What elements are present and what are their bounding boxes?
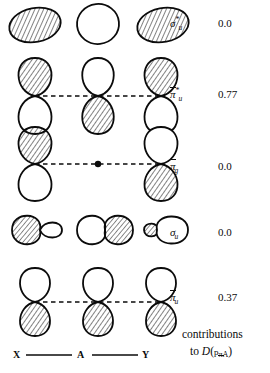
symbol-glyph-5: π [170, 291, 176, 303]
p-orbital-left-top-lobe-row3 [18, 127, 51, 164]
overbar-2 [170, 87, 176, 88]
symbol-base-3: π [170, 160, 176, 172]
overbar-3 [170, 159, 176, 160]
caption-to-word: to [190, 345, 199, 357]
symbol-glyph-3: π [170, 160, 176, 172]
p-orbital-center-bottom-lobe [82, 96, 114, 134]
p-orbital-h-left-open-lobe [40, 223, 62, 238]
symbol-base-1: σ [170, 17, 175, 29]
symbol-glyph-2: π [170, 88, 176, 100]
symbol-base-4: σ [170, 226, 175, 238]
row-5-orbitals [20, 268, 176, 336]
axis-label-x: X [13, 349, 20, 360]
row-value-4: 0.0 [218, 226, 232, 238]
p-orbital-right-bottom-lobe-row5 [146, 302, 176, 336]
p-orbital-center-bottom-lobe-row5 [83, 302, 113, 336]
axis-label-y: Y [142, 349, 149, 360]
row-label-sigma-u: σu [170, 226, 178, 238]
row-1-orbitals [6, 2, 192, 47]
p-orbital-left-top-lobe-row5 [20, 268, 50, 302]
orbital-lobe-open-center [75, 2, 121, 46]
p-orbital-left-bottom-lobe-row5 [20, 302, 50, 336]
caption-overbar [218, 355, 224, 356]
row-value-1: 0.0 [218, 17, 232, 29]
row-label-pi-bar-g: πg [170, 160, 178, 172]
row-3-orbitals [18, 127, 177, 201]
row-value-5: 0.37 [218, 291, 237, 303]
p-orbital-left-top-lobe [18, 58, 51, 96]
symbol-sub-2: u [179, 94, 183, 103]
overbar-5 [170, 290, 176, 291]
row-value-2: 0.77 [218, 88, 237, 100]
orbital-lobe-hatched-left [6, 3, 64, 46]
p-orbital-center-top-lobe [82, 58, 114, 96]
p-orbital-h-center-hatched-lobe [105, 216, 133, 245]
caption-line-2: to D(pπA) [190, 345, 232, 357]
row-2-orbitals [18, 58, 177, 134]
symbol-sub-1: u [178, 23, 182, 32]
caption-line-1: contributions [182, 328, 243, 340]
p-orbital-center-top-lobe-row5 [83, 268, 113, 302]
row-label-sigma-u-star: σ*u [170, 17, 182, 29]
row-4-orbitals [12, 216, 188, 245]
orbital-lobe-hatched-right [134, 3, 192, 46]
orbital-diagram-figure: σ*u 0.0 π*u 0.77 πg 0.0 σu 0.0 πu 0.37 c… [0, 0, 270, 373]
node-dot-center-row3 [95, 161, 101, 167]
row-label-pi-bar-u-star: π*u [170, 88, 182, 100]
symbol-base-5: π [170, 291, 176, 303]
orbital-diagram-canvas [0, 0, 270, 373]
row-value-3: 0.0 [218, 160, 232, 172]
symbol-base-2: π [170, 88, 176, 100]
p-orbital-h-left-hatched-lobe [12, 216, 40, 245]
row-label-pi-bar-u: πu [170, 291, 178, 303]
caption-symbol-D: D [202, 345, 210, 357]
caption-paren-close: ) [228, 345, 232, 357]
p-orbital-h-center-open-lobe [77, 216, 105, 245]
p-orbital-h-right-hatched-lobe [144, 224, 157, 237]
p-orbital-left-bottom-lobe-row3 [18, 164, 51, 201]
axis-label-a: A [77, 349, 84, 360]
